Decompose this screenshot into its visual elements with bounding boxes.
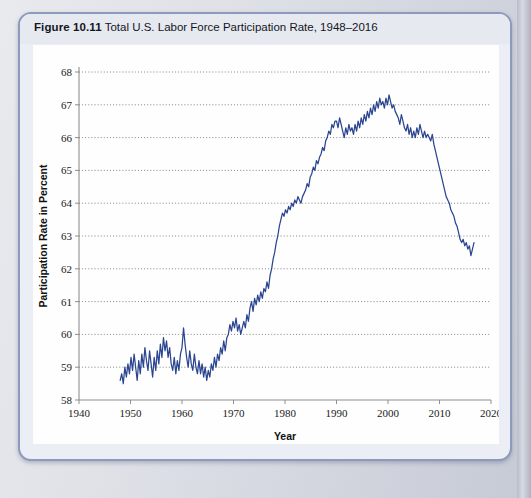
figure-number: Figure 10.11 bbox=[34, 21, 102, 33]
y-tick-label: 65 bbox=[61, 164, 73, 176]
x-tick-label: 1970 bbox=[223, 407, 246, 419]
y-tick-label: 62 bbox=[61, 263, 72, 275]
y-tick-label: 61 bbox=[61, 296, 72, 308]
x-tick-label: 2010 bbox=[429, 407, 452, 419]
figure-title: Total U.S. Labor Force Participation Rat… bbox=[105, 21, 378, 33]
figure-caption: Figure 10.11 Total U.S. Labor Force Part… bbox=[20, 14, 510, 44]
x-tick-label: 2000 bbox=[377, 407, 400, 419]
x-axis-ticks: 194019501960197019801990200020102020 bbox=[68, 400, 499, 419]
figure-card: Figure 10.11 Total U.S. Labor Force Part… bbox=[18, 12, 512, 461]
x-tick-label: 1990 bbox=[326, 407, 349, 419]
y-tick-label: 58 bbox=[61, 394, 73, 406]
y-tick-label: 60 bbox=[61, 328, 73, 340]
y-tick-label: 64 bbox=[61, 197, 73, 209]
x-tick-label: 1950 bbox=[120, 407, 143, 419]
x-tick-label: 2020 bbox=[480, 407, 499, 419]
y-tick-label: 68 bbox=[61, 66, 73, 78]
x-tick-label: 1940 bbox=[68, 407, 91, 419]
y-tick-label: 67 bbox=[61, 99, 73, 111]
x-tick-label: 1980 bbox=[274, 407, 297, 419]
y-tick-label: 59 bbox=[61, 361, 73, 373]
y-axis-ticks: 5859606162636465666768 bbox=[61, 66, 79, 406]
line-chart: 5859606162636465666768 19401950196019701… bbox=[33, 45, 499, 444]
page-edge-shadow bbox=[517, 0, 531, 498]
y-tick-label: 66 bbox=[61, 132, 73, 144]
gridlines bbox=[79, 72, 491, 367]
chart-plot-area: 5859606162636465666768 19401950196019701… bbox=[33, 45, 499, 444]
x-axis-title: Year bbox=[274, 430, 296, 442]
y-tick-label: 63 bbox=[61, 230, 73, 242]
x-tick-label: 1960 bbox=[171, 407, 194, 419]
y-axis-title: Participation Rate in Percent bbox=[37, 164, 49, 307]
participation-rate-line bbox=[120, 95, 474, 384]
